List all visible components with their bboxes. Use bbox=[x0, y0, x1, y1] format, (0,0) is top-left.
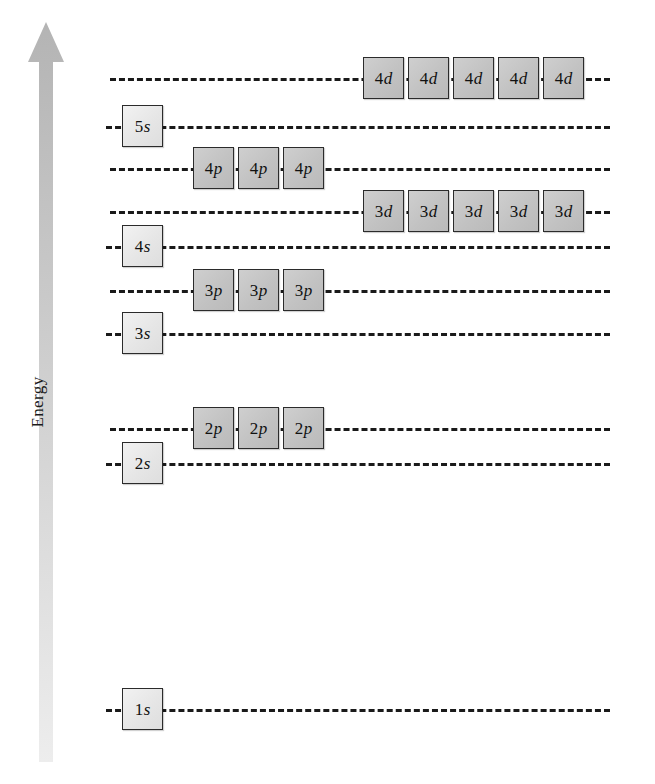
orbital-subshell-letter: d bbox=[473, 203, 482, 220]
orbital-box-1s-1[interactable]: 1s bbox=[122, 688, 163, 730]
level-line-5s bbox=[106, 126, 610, 129]
level-line-3p bbox=[110, 290, 610, 293]
orbital-subshell-letter: d bbox=[518, 70, 527, 87]
level-line-2s bbox=[106, 463, 610, 466]
orbital-principal-number: 4 bbox=[510, 70, 519, 87]
orbital-subshell-letter: p bbox=[258, 420, 267, 437]
orbital-box-3d-5[interactable]: 3d bbox=[543, 190, 584, 232]
orbital-subshell-letter: d bbox=[563, 70, 572, 87]
orbital-principal-number: 4 bbox=[295, 160, 304, 177]
orbital-box-3p-3[interactable]: 3p bbox=[283, 269, 324, 311]
level-line-4s bbox=[106, 246, 610, 249]
orbital-subshell-letter: s bbox=[143, 238, 150, 255]
orbital-box-3p-2[interactable]: 3p bbox=[238, 269, 279, 311]
orbital-box-4d-4[interactable]: 4d bbox=[498, 57, 539, 99]
orbital-box-3d-1[interactable]: 3d bbox=[363, 190, 404, 232]
orbital-principal-number: 2 bbox=[250, 420, 259, 437]
level-line-2p bbox=[110, 428, 610, 431]
orbital-subshell-letter: s bbox=[143, 118, 150, 135]
orbital-box-4p-2[interactable]: 4p bbox=[238, 147, 279, 189]
orbital-box-3d-2[interactable]: 3d bbox=[408, 190, 449, 232]
orbital-principal-number: 3 bbox=[295, 282, 304, 299]
orbital-principal-number: 2 bbox=[135, 455, 144, 472]
orbital-subshell-letter: p bbox=[303, 160, 312, 177]
orbital-box-3d-4[interactable]: 3d bbox=[498, 190, 539, 232]
orbital-subshell-letter: p bbox=[303, 282, 312, 299]
energy-axis-label: Energy bbox=[28, 342, 48, 462]
orbital-principal-number: 4 bbox=[465, 70, 474, 87]
orbital-principal-number: 3 bbox=[465, 203, 474, 220]
orbital-box-3p-1[interactable]: 3p bbox=[193, 269, 234, 311]
orbital-box-4d-2[interactable]: 4d bbox=[408, 57, 449, 99]
orbital-subshell-letter: p bbox=[213, 160, 222, 177]
orbital-box-3s-1[interactable]: 3s bbox=[122, 312, 163, 354]
orbital-subshell-letter: d bbox=[518, 203, 527, 220]
orbital-subshell-letter: s bbox=[143, 701, 150, 718]
orbital-principal-number: 5 bbox=[135, 118, 144, 135]
orbital-box-4p-3[interactable]: 4p bbox=[283, 147, 324, 189]
orbital-box-3d-3[interactable]: 3d bbox=[453, 190, 494, 232]
orbital-principal-number: 4 bbox=[555, 70, 564, 87]
orbital-subshell-letter: d bbox=[563, 203, 572, 220]
orbital-box-4d-1[interactable]: 4d bbox=[363, 57, 404, 99]
orbital-subshell-letter: s bbox=[143, 325, 150, 342]
level-line-3s bbox=[106, 333, 610, 336]
orbital-principal-number: 3 bbox=[205, 282, 214, 299]
orbital-subshell-letter: p bbox=[258, 160, 267, 177]
orbital-box-4s-1[interactable]: 4s bbox=[122, 225, 163, 267]
orbital-principal-number: 4 bbox=[205, 160, 214, 177]
orbital-subshell-letter: p bbox=[258, 282, 267, 299]
orbital-principal-number: 4 bbox=[250, 160, 259, 177]
orbital-principal-number: 2 bbox=[205, 420, 214, 437]
orbital-box-4d-3[interactable]: 4d bbox=[453, 57, 494, 99]
orbital-principal-number: 3 bbox=[510, 203, 519, 220]
level-line-1s bbox=[106, 709, 610, 712]
orbital-principal-number: 2 bbox=[295, 420, 304, 437]
orbital-principal-number: 3 bbox=[420, 203, 429, 220]
orbital-box-4p-1[interactable]: 4p bbox=[193, 147, 234, 189]
orbital-principal-number: 3 bbox=[250, 282, 259, 299]
orbital-box-2p-1[interactable]: 2p bbox=[193, 407, 234, 449]
orbital-principal-number: 3 bbox=[135, 325, 144, 342]
level-line-4p bbox=[110, 168, 610, 171]
orbital-subshell-letter: d bbox=[383, 203, 392, 220]
orbital-principal-number: 4 bbox=[135, 238, 144, 255]
orbital-box-5s-1[interactable]: 5s bbox=[122, 105, 163, 147]
orbital-principal-number: 4 bbox=[375, 70, 384, 87]
orbital-box-4d-5[interactable]: 4d bbox=[543, 57, 584, 99]
orbital-subshell-letter: p bbox=[213, 420, 222, 437]
orbital-box-2s-1[interactable]: 2s bbox=[122, 442, 163, 484]
orbital-principal-number: 1 bbox=[135, 701, 144, 718]
orbital-subshell-letter: d bbox=[428, 203, 437, 220]
orbital-box-2p-3[interactable]: 2p bbox=[283, 407, 324, 449]
orbital-subshell-letter: p bbox=[213, 282, 222, 299]
orbital-box-2p-2[interactable]: 2p bbox=[238, 407, 279, 449]
orbital-principal-number: 4 bbox=[420, 70, 429, 87]
orbital-energy-diagram: Energy 4d4d4d4d4d5s4p4p4p3d3d3d3d3d4s3p3… bbox=[0, 0, 655, 784]
orbital-subshell-letter: d bbox=[428, 70, 437, 87]
orbital-principal-number: 3 bbox=[375, 203, 384, 220]
orbital-subshell-letter: d bbox=[473, 70, 482, 87]
orbital-subshell-letter: s bbox=[143, 455, 150, 472]
orbital-subshell-letter: d bbox=[383, 70, 392, 87]
orbital-principal-number: 3 bbox=[555, 203, 564, 220]
orbital-subshell-letter: p bbox=[303, 420, 312, 437]
